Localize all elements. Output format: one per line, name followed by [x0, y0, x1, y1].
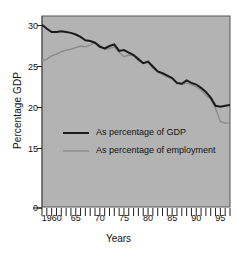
legend-label-1: As percentage of GDP	[96, 127, 186, 137]
x-tick-label: 90	[191, 213, 201, 223]
y-axis-label: Percentage GDP	[12, 46, 23, 176]
legend-label-2: As percentage of employment	[96, 145, 216, 155]
y-tick-label: 30	[16, 21, 38, 31]
plot-background	[42, 16, 230, 207]
x-axis-label: Years	[0, 233, 237, 244]
x-tick-label: 85	[167, 213, 177, 223]
x-tick-label: 65	[71, 213, 81, 223]
chart-figure: 302520150 196065707580859095 Percentage …	[0, 0, 237, 255]
x-tick-label: 1960	[42, 213, 62, 223]
x-tick-label: 70	[95, 213, 105, 223]
x-tick-label: 75	[119, 213, 129, 223]
x-tick-label: 80	[143, 213, 153, 223]
x-tick-label: 95	[215, 213, 225, 223]
y-tick-label: 0	[16, 203, 38, 213]
